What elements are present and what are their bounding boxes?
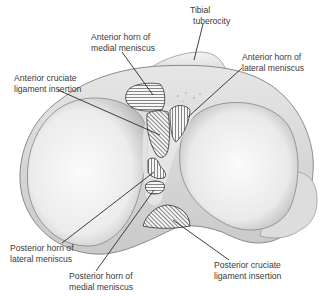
posterior-horn-medial-meniscus-region (145, 181, 164, 194)
anterior-horn-medial-meniscus-region (126, 83, 165, 111)
label-posterior-horn-lateral: Posterior horn of lateral meniscus (10, 243, 74, 264)
label-pcl-insertion: Posterior cruciate ligament insertion (214, 260, 281, 281)
label-tibial-tuberosity: Tibial tuberocity (190, 5, 230, 26)
label-anterior-horn-medial: Anterior horn of medial meniscus (91, 32, 155, 53)
label-acl-insertion: Anterior cruciate ligament insertion (14, 73, 81, 94)
label-posterior-horn-medial: Posterior horn of medial meniscus (69, 271, 133, 292)
label-anterior-horn-lateral: Anterior horn of lateral meniscus (242, 52, 304, 73)
